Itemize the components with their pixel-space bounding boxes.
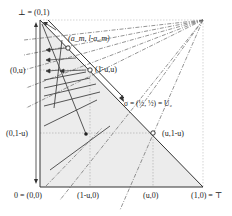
- label-bottom-1mu: (1-u,0): [77, 192, 99, 200]
- label-bottom-right: (1,0) = ⊤: [191, 192, 222, 200]
- label-point-am: (a_m, l-a_m): [68, 35, 110, 43]
- label-point-bar1mu: (1̄-u,u): [95, 66, 117, 74]
- point-u-1mu: [151, 131, 155, 135]
- label-bottom-left: 0 = (0,0): [14, 192, 42, 200]
- up-arrow-head: [34, 22, 38, 27]
- label-top-left: ⊥ = (0,1): [18, 9, 49, 17]
- down-arrow-head: [34, 179, 38, 184]
- label-bottom-u: (u,0): [143, 192, 158, 200]
- point-am: [66, 46, 70, 50]
- label-point-sigma: σ = (½, ½) = U₂: [124, 100, 172, 108]
- point-dark: [84, 132, 88, 136]
- label-left-1mu: (0,1-u): [6, 130, 28, 138]
- point-bar1mu-u: [88, 68, 92, 72]
- lattice-diagram: [0, 0, 232, 216]
- label-point-u1mu: (u,1-u): [162, 130, 184, 138]
- label-left-u: (0,u): [10, 67, 25, 75]
